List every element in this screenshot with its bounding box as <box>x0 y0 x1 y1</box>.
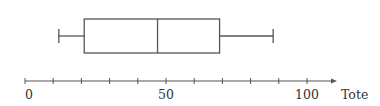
tick-label: 100 <box>295 87 319 102</box>
x-axis-label: Tote <box>341 87 368 102</box>
tick-label: 50 <box>158 87 174 102</box>
tick-label: 0 <box>25 87 33 102</box>
iqr-box <box>84 19 219 53</box>
x-axis: 050100 <box>25 78 337 102</box>
box-plot-chart: 050100 Tote <box>0 0 380 106</box>
axis-arrow-icon <box>331 79 337 84</box>
box-plot <box>59 19 273 53</box>
